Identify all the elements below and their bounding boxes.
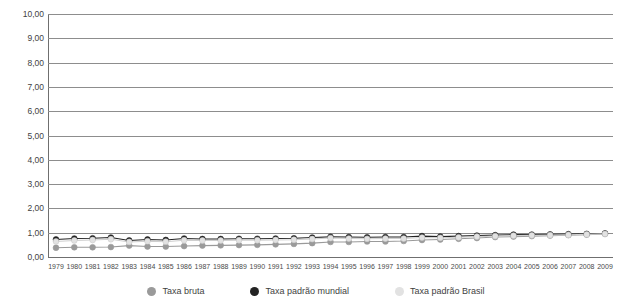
x-tick-label: 1993 — [304, 262, 320, 272]
data-point-marker — [53, 245, 59, 251]
data-point-marker — [584, 232, 590, 238]
x-tick-label: 1985 — [158, 262, 174, 272]
data-point-marker — [254, 237, 260, 243]
data-point-marker — [419, 235, 425, 241]
data-point-marker — [383, 236, 389, 242]
legend-swatch-circle-icon — [147, 287, 156, 296]
data-point-marker — [474, 234, 480, 240]
data-point-marker — [71, 244, 77, 250]
data-point-marker — [108, 244, 114, 250]
data-point-marker — [291, 237, 297, 243]
x-tick-label: 1990 — [250, 262, 266, 272]
legend-item[interactable]: Taxa padrão mundial — [250, 286, 349, 297]
data-point-marker — [181, 243, 187, 249]
data-point-marker — [181, 237, 187, 243]
x-tick-label: 2002 — [469, 262, 485, 272]
x-tick-label: 1999 — [414, 262, 430, 272]
chart-legend: Taxa brutaTaxa padrão mundialTaxa padrão… — [0, 281, 632, 301]
data-point-marker — [492, 233, 498, 239]
x-tick-label: 1980 — [67, 262, 83, 272]
data-point-marker — [273, 237, 279, 243]
data-point-marker — [200, 238, 206, 244]
legend-item[interactable]: Taxa padrão Brasil — [395, 286, 485, 297]
x-tick-label: 2004 — [506, 262, 522, 272]
data-point-marker — [364, 236, 370, 242]
data-point-marker — [126, 239, 132, 245]
x-tick-label: 1995 — [341, 262, 357, 272]
line-chart: 10,009,008,007,006,005,004,003,002,001,0… — [0, 0, 632, 301]
x-tick-label: 2007 — [561, 262, 577, 272]
y-tick-label: 7,00 — [2, 83, 44, 92]
data-point-marker — [566, 232, 572, 238]
x-tick-label: 1981 — [85, 262, 101, 272]
x-tick-label: 1987 — [195, 262, 211, 272]
data-point-marker — [218, 238, 224, 244]
x-tick-label: 1994 — [323, 262, 339, 272]
data-point-marker — [90, 244, 96, 250]
x-axis-tick-labels: 1979198019811982198319841985198619871988… — [48, 262, 613, 274]
x-tick-label: 1988 — [213, 262, 229, 272]
data-point-marker — [401, 236, 407, 242]
data-point-marker — [53, 239, 59, 245]
legend-swatch-circle-icon — [250, 287, 259, 296]
y-tick-label: 0,00 — [2, 253, 44, 262]
x-tick-label: 2006 — [542, 262, 558, 272]
legend-label: Taxa padrão mundial — [265, 286, 349, 297]
data-point-marker — [236, 237, 242, 243]
y-tick-label: 1,00 — [2, 229, 44, 238]
y-tick-label: 5,00 — [2, 132, 44, 141]
legend-label: Taxa padrão Brasil — [410, 286, 485, 297]
x-tick-label: 2009 — [597, 262, 613, 272]
data-point-marker — [71, 238, 77, 244]
data-point-marker — [90, 237, 96, 243]
x-tick-label: 1991 — [268, 262, 284, 272]
y-tick-label: 10,00 — [2, 10, 44, 19]
legend-item[interactable]: Taxa bruta — [147, 286, 204, 297]
y-tick-label: 9,00 — [2, 34, 44, 43]
x-tick-label: 1984 — [140, 262, 156, 272]
x-tick-label: 2003 — [487, 262, 503, 272]
data-point-marker — [602, 231, 608, 237]
x-tick-label: 2001 — [451, 262, 467, 272]
x-tick-label: 1997 — [378, 262, 394, 272]
data-point-marker — [437, 235, 443, 241]
data-point-marker — [346, 236, 352, 242]
gridline-0-00 — [48, 257, 613, 258]
x-tick-label: 1989 — [231, 262, 247, 272]
x-tick-label: 1996 — [359, 262, 375, 272]
data-point-marker — [309, 236, 315, 242]
y-tick-label: 3,00 — [2, 180, 44, 189]
y-tick-label: 6,00 — [2, 107, 44, 116]
x-tick-label: 2005 — [524, 262, 540, 272]
legend-label: Taxa bruta — [162, 286, 204, 297]
plot-area — [48, 14, 613, 257]
x-tick-label: 1986 — [176, 262, 192, 272]
x-tick-label: 1983 — [121, 262, 137, 272]
y-tick-label: 2,00 — [2, 204, 44, 213]
data-point-marker — [456, 234, 462, 240]
x-tick-label: 1979 — [48, 262, 64, 272]
data-point-marker — [145, 238, 151, 244]
data-point-marker — [108, 236, 114, 242]
series-layer — [48, 14, 613, 257]
data-point-marker — [145, 244, 151, 250]
data-point-marker — [529, 232, 535, 238]
data-point-marker — [163, 239, 169, 245]
legend-swatch-circle-icon — [395, 287, 404, 296]
y-tick-label: 8,00 — [2, 59, 44, 68]
x-tick-label: 1998 — [396, 262, 412, 272]
x-tick-label: 2008 — [579, 262, 595, 272]
x-tick-label: 1992 — [286, 262, 302, 272]
data-point-marker — [547, 232, 553, 238]
x-tick-label: 1982 — [103, 262, 119, 272]
y-tick-label: 4,00 — [2, 156, 44, 165]
data-point-marker — [328, 235, 334, 241]
data-point-marker — [511, 233, 517, 239]
x-tick-label: 2000 — [433, 262, 449, 272]
